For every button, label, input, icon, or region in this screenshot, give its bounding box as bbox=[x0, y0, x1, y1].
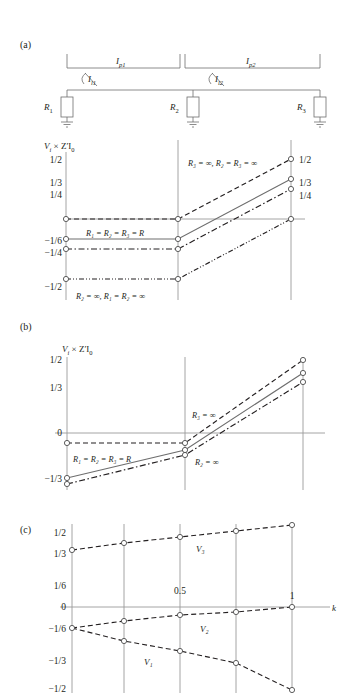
chart-c-annotation-v2: V₂ bbox=[200, 624, 209, 634]
leak-arc-1 bbox=[82, 73, 86, 84]
chart-c-ytick-1: 1/3 bbox=[54, 549, 66, 559]
chart-c-ytick-0: 1/2 bbox=[54, 528, 66, 538]
chart-c-series-v1 bbox=[72, 628, 292, 690]
circuit-label-r1: R1 bbox=[43, 102, 53, 114]
chart-a-annotation-1: R₁ = R₂ = R₃ = R bbox=[85, 229, 144, 238]
chart-a-ytick-2: 1/4 bbox=[50, 190, 62, 200]
chart-a-series-dashed bbox=[66, 159, 291, 219]
resistor-box-1 bbox=[61, 97, 73, 117]
circuit-label-il1: Il1 bbox=[87, 74, 96, 86]
chart-b-ylabel: Vi × Z′I0 bbox=[62, 344, 93, 356]
chart-b-annotation-1: R₁ = R₂ = R₃ = R bbox=[72, 455, 131, 464]
chart-a-ytick-4: −1/4 bbox=[45, 248, 63, 258]
chart-c-ytick-3: 0 bbox=[61, 602, 66, 612]
chart-a-ytick-labels-right: 1/2 1/3 1/4 bbox=[299, 155, 311, 201]
chart-a-rtick-0: 1/2 bbox=[299, 155, 311, 165]
panel-label-c: (c) bbox=[20, 524, 31, 536]
panel-label-b: (b) bbox=[20, 321, 32, 333]
circuit-label-ip1: Ip1 bbox=[115, 56, 126, 68]
chart-a-ytick-1: 1/3 bbox=[50, 178, 62, 188]
chart-b-annotation-2: R₂ = ∞ bbox=[194, 458, 219, 467]
chart-c-xtick-1: 1 bbox=[290, 591, 295, 601]
chart-b: Vi × Z′I0 1/2 1/3 0 −1/3 R₃ = ∞ R₁ = R₂ … bbox=[45, 344, 326, 490]
circuit-label-r2: R2 bbox=[169, 102, 179, 114]
panel-label-a: (a) bbox=[20, 39, 31, 51]
chart-b-ytick-2: 0 bbox=[57, 428, 62, 438]
resistor-box-3 bbox=[314, 97, 326, 117]
circuit-label-ip2: Ip2 bbox=[245, 56, 256, 68]
chart-c-annotation-v3: V₃ bbox=[196, 544, 205, 554]
chart-a-ytick-labels-left: 1/2 1/3 1/4 −1/6 −1/4 −1/2 bbox=[45, 155, 63, 292]
chart-c-series bbox=[72, 525, 292, 690]
circuit-label-il2: Il2 bbox=[214, 74, 224, 86]
chart-a-ylabel: Vi × Z′I0 bbox=[44, 141, 75, 153]
chart-c-series-v2 bbox=[72, 607, 292, 628]
chart-b-annotation-0: R₃ = ∞ bbox=[191, 411, 216, 420]
chart-b-ytick-3: −1/3 bbox=[45, 474, 63, 484]
chart-c-ytick-labels: 1/2 1/3 1/6 0 −1/6 −1/3 −1/2 bbox=[49, 528, 67, 694]
chart-b-ytick-labels: 1/2 1/3 0 −1/3 bbox=[45, 355, 63, 484]
ground-symbol-2 bbox=[187, 122, 199, 127]
chart-c-ytick-5: −1/3 bbox=[49, 656, 67, 666]
chart-c-ytick-4: −1/6 bbox=[49, 624, 67, 634]
ground-symbol-3 bbox=[314, 122, 326, 127]
figure-svg: (a) Ip1 bbox=[0, 0, 346, 695]
chart-a-ytick-0: 1/2 bbox=[50, 155, 62, 165]
chart-c-xlabel: k bbox=[332, 603, 337, 613]
chart-a-gridlines bbox=[66, 140, 305, 300]
chart-b-gridlines bbox=[55, 357, 325, 490]
circuit-diagram bbox=[61, 54, 326, 127]
circuit-label-r3: R3 bbox=[296, 102, 306, 114]
chart-b-ytick-1: 1/3 bbox=[50, 383, 62, 393]
chart-c-ytick-2: 1/6 bbox=[54, 581, 66, 591]
chart-c-annotation-v1: V₁ bbox=[144, 657, 153, 667]
resistor-box-2 bbox=[187, 97, 199, 117]
chart-a-annotation-0: R₃ = ∞, R₂ = R₃ = ∞ bbox=[187, 159, 257, 168]
chart-c-markers bbox=[69, 522, 294, 692]
chart-a-annotation-2: R₂ = ∞, R₁ = R₂ = ∞ bbox=[75, 292, 145, 301]
figure-container: (a) Ip1 bbox=[0, 0, 346, 695]
chart-a-ytick-3: −1/6 bbox=[45, 236, 63, 246]
chart-a-rtick-2: 1/4 bbox=[299, 191, 311, 201]
chart-c: 1/2 1/3 1/6 0 −1/6 −1/3 −1/2 0.5 1 k V₃ … bbox=[49, 522, 338, 694]
chart-a-ytick-5: −1/2 bbox=[45, 282, 63, 292]
chart-a: Vi × Z′I0 1/2 1/3 1/4 −1/6 −1/4 −1/2 1/2… bbox=[44, 140, 311, 301]
chart-c-ytick-6: −1/2 bbox=[49, 684, 67, 694]
chart-b-ytick-0: 1/2 bbox=[50, 355, 62, 365]
leak-arc-2 bbox=[209, 73, 213, 84]
ground-symbol-1 bbox=[61, 122, 73, 127]
chart-a-rtick-1: 1/3 bbox=[299, 178, 311, 188]
chart-c-xtick-0: 0.5 bbox=[174, 586, 186, 596]
